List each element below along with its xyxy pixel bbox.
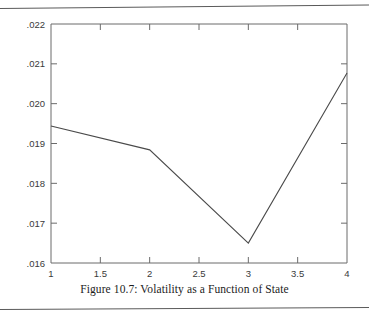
y-tick-label: .020 — [27, 98, 46, 109]
x-tick-label: 4 — [344, 268, 349, 279]
y-tick-label: .021 — [27, 58, 46, 69]
x-axis-ticks — [100, 24, 297, 263]
data-series-volatility — [51, 73, 347, 243]
y-axis-labels: .016.017.018.019.020.021.022 — [27, 19, 46, 269]
x-tick-label: 2.5 — [192, 268, 205, 279]
plot-frame — [51, 24, 347, 263]
y-tick-label: .017 — [27, 218, 46, 229]
x-tick-label: 3 — [246, 268, 251, 279]
x-tick-label: 1.5 — [94, 268, 107, 279]
y-axis-ticks — [51, 64, 347, 223]
volatility-line-chart: .016.017.018.019.020.021.022 11.522.533.… — [0, 0, 369, 315]
x-tick-label: 2 — [147, 268, 152, 279]
x-tick-label: 3.5 — [291, 268, 304, 279]
y-tick-label: .018 — [27, 178, 46, 189]
figure-container: .016.017.018.019.020.021.022 11.522.533.… — [0, 0, 369, 315]
y-tick-label: .016 — [27, 258, 46, 269]
plot-axes — [51, 24, 347, 263]
x-tick-label: 1 — [48, 268, 53, 279]
y-tick-label: .022 — [27, 19, 46, 30]
y-tick-label: .019 — [27, 138, 46, 149]
figure-caption: Figure 10.7: Volatility as a Function of… — [0, 283, 369, 295]
x-axis-labels: 11.522.533.54 — [48, 268, 349, 279]
